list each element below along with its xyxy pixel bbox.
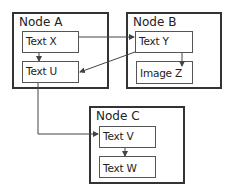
text-v-label: Text V	[103, 130, 134, 142]
text-w-box: Text W	[99, 156, 156, 178]
text-x-label: Text X	[26, 35, 57, 47]
text-v-box: Text V	[99, 126, 156, 148]
text-y-box: Text Y	[135, 31, 193, 53]
node-c-title: Node C	[96, 109, 140, 123]
text-u-label: Text U	[26, 65, 57, 77]
text-u-box: Text U	[22, 61, 79, 83]
text-w-label: Text W	[103, 162, 137, 174]
node-a-title: Node A	[19, 15, 62, 29]
text-x-box: Text X	[22, 31, 79, 53]
node-b-title: Node B	[133, 15, 176, 29]
image-z-box: Image Z	[136, 61, 193, 84]
image-z-label: Image Z	[140, 67, 182, 79]
text-y-label: Text Y	[139, 35, 169, 47]
